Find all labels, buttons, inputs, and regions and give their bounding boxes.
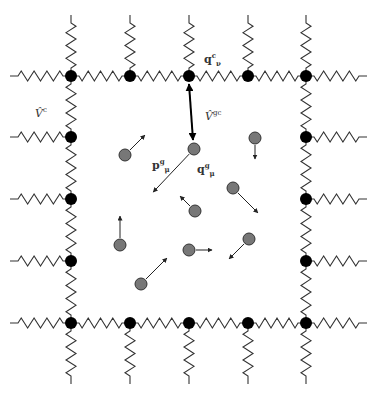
cage-potential-label: V̂c bbox=[35, 107, 47, 119]
spring bbox=[248, 318, 306, 328]
guest-particle bbox=[243, 233, 255, 245]
cage-node bbox=[65, 70, 77, 82]
spring bbox=[301, 261, 311, 323]
spring bbox=[306, 256, 367, 266]
cage-node bbox=[300, 193, 312, 205]
cage-node bbox=[183, 70, 195, 82]
cage-node bbox=[65, 193, 77, 205]
spring bbox=[130, 318, 189, 328]
spring bbox=[10, 132, 71, 142]
momentum-arrow bbox=[238, 193, 258, 213]
guest-particle bbox=[183, 244, 195, 256]
spring bbox=[306, 318, 367, 328]
spring bbox=[243, 15, 253, 76]
spring bbox=[66, 261, 76, 323]
guest-particle bbox=[119, 149, 131, 161]
spring bbox=[301, 76, 311, 137]
cage-node bbox=[300, 317, 312, 329]
spring bbox=[184, 323, 194, 384]
cage-node bbox=[242, 70, 254, 82]
cage-node bbox=[300, 70, 312, 82]
spring bbox=[66, 15, 76, 76]
spring bbox=[301, 15, 311, 76]
spring bbox=[301, 323, 311, 384]
cage-node bbox=[124, 317, 136, 329]
spring bbox=[306, 132, 367, 142]
guest-particle bbox=[114, 239, 126, 251]
guest-momentum-label: pgμ bbox=[152, 158, 170, 173]
spring bbox=[66, 323, 76, 384]
guest-particle bbox=[189, 205, 201, 217]
spring bbox=[10, 71, 71, 81]
cage-node bbox=[65, 317, 77, 329]
guest-particle bbox=[188, 143, 200, 155]
guest-particle bbox=[135, 278, 147, 290]
spring bbox=[184, 15, 194, 76]
spring bbox=[71, 71, 130, 81]
cage-node-position-label: qcν bbox=[204, 52, 221, 67]
spring bbox=[306, 71, 367, 81]
momentum-arrow bbox=[146, 258, 167, 279]
cage-node bbox=[65, 131, 77, 143]
guest-particle bbox=[249, 132, 261, 144]
cage-node bbox=[300, 255, 312, 267]
guest-position-label: qgμ bbox=[197, 162, 215, 177]
cage-node bbox=[242, 317, 254, 329]
guest-particles bbox=[114, 132, 261, 290]
guest-cage-interaction-arrow bbox=[189, 84, 193, 140]
spring bbox=[125, 15, 135, 76]
momentum-arrow bbox=[229, 244, 244, 259]
spring bbox=[71, 318, 130, 328]
guest-cage-potential-label: V̂gc bbox=[205, 110, 221, 122]
spring bbox=[66, 199, 76, 261]
spring bbox=[301, 199, 311, 261]
cage-node bbox=[124, 70, 136, 82]
cage-diagram bbox=[0, 0, 377, 398]
momentum-arrow bbox=[130, 135, 145, 150]
spring bbox=[10, 194, 71, 204]
cage-node bbox=[300, 131, 312, 143]
guest-particle bbox=[227, 182, 239, 194]
cage-node bbox=[183, 317, 195, 329]
spring bbox=[189, 318, 248, 328]
spring bbox=[10, 318, 71, 328]
cage-nodes bbox=[65, 70, 312, 329]
momentum-arrow bbox=[180, 196, 190, 206]
cage-node bbox=[65, 255, 77, 267]
spring bbox=[243, 323, 253, 384]
spring bbox=[66, 76, 76, 137]
spring bbox=[10, 256, 71, 266]
spring bbox=[130, 71, 189, 81]
spring bbox=[248, 71, 306, 81]
spring bbox=[125, 323, 135, 384]
spring bbox=[306, 194, 367, 204]
spring bbox=[66, 137, 76, 199]
spring bbox=[301, 137, 311, 199]
spring bbox=[189, 71, 248, 81]
